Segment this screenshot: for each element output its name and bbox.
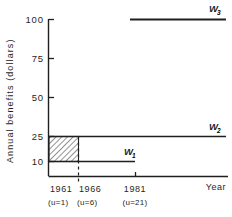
series-label-w1: W 1 (124, 146, 136, 159)
x-axis-title: Year (206, 182, 226, 192)
y-tick-label-25: 25 (32, 131, 44, 142)
series-label-w1-subscript: 1 (132, 152, 136, 159)
x-tick-label-1966: 1966 (79, 184, 101, 194)
hatched-area (49, 137, 79, 162)
chart-canvas: 100 75 50 25 10 Annual benefits (dollars… (0, 0, 232, 217)
y-tick-label-100: 100 (25, 14, 44, 25)
series-label-w3-subscript: 3 (217, 9, 221, 16)
y-tick-label-10: 10 (32, 156, 44, 167)
x-axis-tick-labels: 1961 (u=1) 1966 (u=6) 1981 (u=21) (48, 184, 148, 207)
y-tick-label-75: 75 (32, 53, 44, 64)
series-label-w2: W 2 (209, 121, 221, 134)
series-label-w3: W 3 (209, 3, 221, 16)
x-tick-label-1961: 1961 (50, 184, 72, 194)
x-tick-label-1981: 1981 (124, 184, 146, 194)
y-axis-tick-labels: 100 75 50 25 10 (25, 14, 44, 167)
y-axis-title: Annual benefits (dollars) (5, 38, 15, 163)
x-tick-sublabel-1961: (u=1) (48, 198, 68, 207)
x-tick-sublabel-1966: (u=6) (77, 198, 97, 207)
series-label-w2-subscript: 2 (216, 127, 221, 134)
chart-figure: 100 75 50 25 10 Annual benefits (dollars… (0, 0, 232, 217)
y-tick-label-50: 50 (32, 92, 44, 103)
x-tick-sublabel-1981: (u=21) (122, 198, 147, 207)
